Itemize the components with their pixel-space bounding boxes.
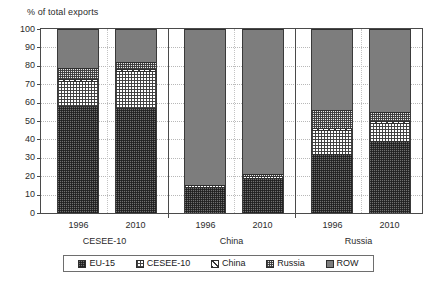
segment-china[interactable] xyxy=(116,69,156,71)
segment-cesee-10[interactable] xyxy=(185,185,225,187)
legend-label: Russia xyxy=(277,259,305,268)
segment-russia[interactable] xyxy=(370,112,410,121)
y-tick-mark-10 xyxy=(37,195,40,196)
bar-cesee-10-1996[interactable] xyxy=(57,29,99,213)
segment-row[interactable] xyxy=(243,29,283,174)
bar-china-2010[interactable] xyxy=(242,29,284,213)
y-tick-mark-0 xyxy=(37,213,40,214)
x-group-tick-1 xyxy=(168,214,169,218)
legend-label: CESEE-10 xyxy=(147,259,191,268)
segment-cesee-10[interactable] xyxy=(370,123,410,141)
x-tick-label-1: 2010 xyxy=(113,221,159,230)
segment-row[interactable] xyxy=(116,29,156,62)
y-tick-label-60: 60 xyxy=(11,98,35,107)
segment-row[interactable] xyxy=(185,29,225,185)
segment-russia[interactable] xyxy=(116,62,156,69)
y-axis-title: % of total exports xyxy=(27,7,98,17)
legend-swatch-row-icon xyxy=(326,260,334,268)
segment-cesee-10[interactable] xyxy=(243,176,283,178)
bar-china-1996[interactable] xyxy=(184,29,226,213)
segment-eu-15[interactable] xyxy=(58,106,98,213)
segment-row[interactable] xyxy=(370,29,410,112)
x-tick-label-3: 2010 xyxy=(240,221,286,230)
legend-item-eu-15[interactable]: EU-15 xyxy=(78,259,115,268)
segment-russia[interactable] xyxy=(243,174,283,176)
y-tick-mark-40 xyxy=(37,139,40,140)
x-group-tick-2 xyxy=(295,214,296,218)
legend-item-russia[interactable]: Russia xyxy=(266,259,305,268)
segment-china[interactable] xyxy=(370,121,410,123)
group-separator-1 xyxy=(168,29,169,213)
segment-cesee-10[interactable] xyxy=(58,81,98,107)
segment-russia[interactable] xyxy=(58,68,98,79)
y-tick-label-100: 100 xyxy=(11,25,35,34)
y-tick-mark-80 xyxy=(37,66,40,67)
legend-item-cesee-10[interactable]: CESEE-10 xyxy=(136,259,191,268)
y-tick-mark-60 xyxy=(37,103,40,104)
gridline-x-0 xyxy=(107,29,108,213)
segment-cesee-10[interactable] xyxy=(312,130,352,154)
x-tick-label-4: 1996 xyxy=(309,221,355,230)
chart-legend: EU-15CESEE-10ChinaRussiaROW xyxy=(63,255,374,272)
legend-swatch-china-icon xyxy=(211,260,219,268)
x-tick-label-0: 1996 xyxy=(55,221,101,230)
segment-eu-15[interactable] xyxy=(185,187,225,213)
segment-china[interactable] xyxy=(312,128,352,130)
y-tick-label-50: 50 xyxy=(11,117,35,126)
segment-cesee-10[interactable] xyxy=(116,71,156,108)
y-tick-label-40: 40 xyxy=(11,135,35,144)
y-tick-label-80: 80 xyxy=(11,61,35,70)
y-tick-label-70: 70 xyxy=(11,80,35,89)
y-tick-mark-50 xyxy=(37,121,40,122)
y-tick-label-0: 0 xyxy=(11,209,35,218)
x-group-label-cesee-10: CESEE-10 xyxy=(41,237,168,246)
y-tick-mark-20 xyxy=(37,176,40,177)
legend-swatch-eu-15-icon xyxy=(78,260,86,268)
x-tick-label-5: 2010 xyxy=(367,221,413,230)
segment-row[interactable] xyxy=(312,29,352,110)
y-tick-mark-30 xyxy=(37,158,40,159)
legend-label: EU-15 xyxy=(89,259,115,268)
bar-cesee-10-2010[interactable] xyxy=(115,29,157,213)
bar-russia-2010[interactable] xyxy=(369,29,411,213)
x-tick-label-2: 1996 xyxy=(182,221,228,230)
segment-row[interactable] xyxy=(58,29,98,68)
y-tick-mark-70 xyxy=(37,84,40,85)
segment-eu-15[interactable] xyxy=(243,178,283,213)
stacked-bar-chart: % of total exports 010203040506070809010… xyxy=(0,0,439,285)
y-tick-label-30: 30 xyxy=(11,153,35,162)
legend-swatch-russia-icon xyxy=(266,260,274,268)
x-group-label-russia: Russia xyxy=(295,237,422,246)
bar-russia-1996[interactable] xyxy=(311,29,353,213)
legend-swatch-cesee-10-icon xyxy=(136,260,144,268)
segment-eu-15[interactable] xyxy=(116,108,156,213)
segment-china[interactable] xyxy=(58,79,98,81)
x-group-label-china: China xyxy=(168,237,295,246)
legend-label: China xyxy=(222,259,246,268)
legend-label: ROW xyxy=(337,259,359,268)
gridline-x-2 xyxy=(361,29,362,213)
legend-item-china[interactable]: China xyxy=(211,259,246,268)
segment-russia[interactable] xyxy=(312,110,352,128)
group-separator-2 xyxy=(295,29,296,213)
y-tick-label-20: 20 xyxy=(11,172,35,181)
y-tick-mark-90 xyxy=(37,47,40,48)
segment-eu-15[interactable] xyxy=(370,141,410,213)
legend-item-row[interactable]: ROW xyxy=(326,259,359,268)
segment-eu-15[interactable] xyxy=(312,154,352,213)
y-tick-label-10: 10 xyxy=(11,190,35,199)
y-tick-mark-100 xyxy=(37,29,40,30)
gridline-x-1 xyxy=(234,29,235,213)
y-tick-label-90: 90 xyxy=(11,43,35,52)
